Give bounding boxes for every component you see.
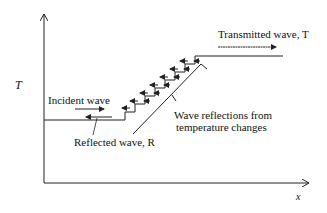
transmitted-wave-label: Transmitted wave, T (218, 29, 309, 40)
diagram-canvas: T x Transmitted wave, T Incident wave Re… (0, 0, 327, 213)
y-axis-label: T (15, 79, 22, 91)
x-axis-label: x (296, 192, 300, 202)
reflected-wave-label: Reflected wave, R (74, 137, 155, 148)
reflections-label-line1: Wave reflections from (174, 110, 272, 121)
incident-wave-label: Incident wave (48, 95, 110, 106)
reflection-arrows (122, 61, 200, 108)
reflections-label-line2: temperature changes (176, 122, 267, 133)
